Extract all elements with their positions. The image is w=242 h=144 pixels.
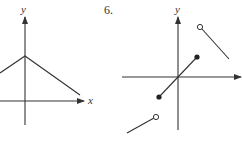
graph-left: y x bbox=[0, 3, 93, 125]
graph-right: 6. y bbox=[104, 3, 241, 133]
problem-number: 6. bbox=[104, 3, 113, 17]
y-axis-label: y bbox=[20, 3, 26, 15]
lower-segment bbox=[127, 118, 154, 133]
closed-point bbox=[194, 54, 199, 59]
y-axis-label: y bbox=[174, 3, 180, 15]
x-axis-label: x bbox=[87, 94, 93, 106]
closed-point bbox=[156, 94, 161, 99]
open-point bbox=[197, 24, 202, 29]
graph-line bbox=[0, 56, 80, 95]
figure-canvas: y x 6. y bbox=[0, 0, 242, 144]
upper-segment bbox=[202, 29, 229, 59]
open-point bbox=[153, 114, 158, 119]
